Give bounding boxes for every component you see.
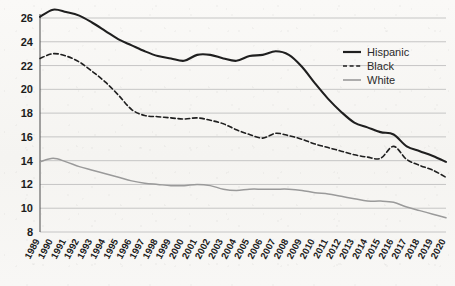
y-axis-tick-label: 26 [21,12,33,24]
y-axis-tick-label: 22 [21,60,33,72]
legend-label-hispanic: Hispanic [367,46,410,58]
line-chart: 8101214161820222426 19891990199119921993… [0,0,455,286]
chart-canvas: 8101214161820222426 19891990199119921993… [0,0,455,286]
series-line-white [40,158,446,217]
legend-label-black: Black [367,60,394,72]
y-axis-tick-label: 8 [27,226,33,238]
x-axis: 1989199019911992199319941995199619971998… [22,236,448,260]
y-axis: 8101214161820222426 [21,12,40,238]
y-axis-tick-label: 16 [21,131,33,143]
series-line-black [40,54,446,178]
y-axis-tick-label: 10 [21,202,33,214]
data-series-group [40,10,446,218]
legend-label-white: White [367,74,395,86]
y-axis-tick-label: 24 [21,36,34,48]
y-axis-tick-label: 14 [21,155,34,167]
y-axis-tick-label: 12 [21,178,33,190]
y-axis-tick-label: 20 [21,83,33,95]
y-axis-tick-label: 18 [21,107,33,119]
chart-legend: HispanicBlackWhite [343,46,410,86]
